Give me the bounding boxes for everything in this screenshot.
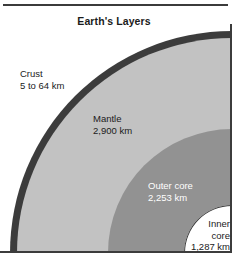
header-rule [3, 4, 228, 6]
label-inner-core: Inner core 1,287 km [176, 218, 230, 253]
earths-layers-figure: Earth's Layers Crust 5 to 64 km Mantle 2… [0, 0, 240, 273]
label-mantle: Mantle 2,900 km [93, 113, 132, 136]
label-crust: Crust 5 to 64 km [20, 68, 64, 91]
label-outer-core: Outer core 2,253 km [148, 180, 193, 203]
diagram-right-edge [230, 24, 232, 253]
